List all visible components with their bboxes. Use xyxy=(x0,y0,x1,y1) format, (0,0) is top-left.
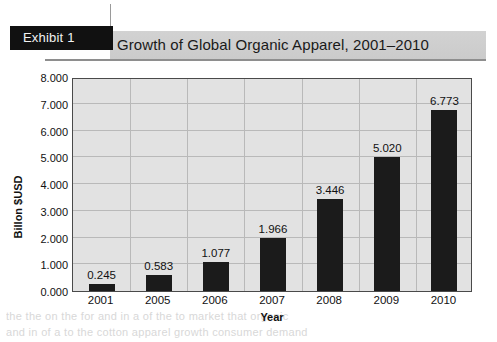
bar-value-label: 1.077 xyxy=(201,247,230,259)
bar xyxy=(260,238,286,291)
x-axis-tick-label: 2007 xyxy=(259,294,285,306)
y-axis-tick-label: 0.000 xyxy=(26,286,68,298)
bar-value-label: 1.966 xyxy=(259,223,288,235)
y-axis-tick-label: 5.000 xyxy=(26,152,68,164)
bar-value-label: 3.446 xyxy=(316,184,345,196)
bar-group: 1.077 xyxy=(187,79,244,291)
bar xyxy=(146,275,172,291)
x-axis-tick-label: 2001 xyxy=(88,294,114,306)
bar-value-label: 0.245 xyxy=(87,269,116,281)
plot-area: 0.2450.5831.0771.9663.4465.0206.773 xyxy=(72,78,472,292)
bar-series: 0.2450.5831.0771.9663.4465.0206.773 xyxy=(73,79,471,291)
bar xyxy=(203,262,229,291)
bar-value-label: 6.773 xyxy=(430,95,459,107)
bar-group: 1.966 xyxy=(244,79,301,291)
bar xyxy=(431,110,457,291)
bar-group: 0.245 xyxy=(73,79,130,291)
exhibit-label: Exhibit 1 xyxy=(23,30,75,45)
y-axis-title: Billon $USD xyxy=(12,157,24,257)
x-axis-tick-label: 2008 xyxy=(316,294,342,306)
y-axis-tick-label: 2.000 xyxy=(26,233,68,245)
x-axis-tick-labels: 2001200520062007200820092010 xyxy=(72,294,472,312)
bar xyxy=(317,199,343,291)
x-axis-tick-label: 2009 xyxy=(373,294,399,306)
bar-group: 5.020 xyxy=(359,79,416,291)
title-band-underline xyxy=(45,59,486,61)
page-title: Growth of Global Organic Apparel, 2001–2… xyxy=(117,36,429,53)
exhibit-header: Exhibit 1 Growth of Global Organic Appar… xyxy=(0,0,497,70)
x-axis-title: Year xyxy=(72,311,472,323)
page-bleed-line-2: and in of a to the cotton apparel growth… xyxy=(6,326,497,338)
bar-group: 3.446 xyxy=(302,79,359,291)
x-axis-tick-label: 2005 xyxy=(145,294,171,306)
y-axis-tick-label: 8.000 xyxy=(26,72,68,84)
bar-value-label: 0.583 xyxy=(144,260,173,272)
y-axis-tick-label: 6.000 xyxy=(26,126,68,138)
bar xyxy=(89,284,115,291)
bar-group: 0.583 xyxy=(130,79,187,291)
y-axis-tick-label: 3.000 xyxy=(26,206,68,218)
bar-chart: Billon $USD 8.0007.0006.0005.0004.0003.0… xyxy=(0,70,497,315)
y-axis-tick-label: 4.000 xyxy=(26,179,68,191)
y-axis-tick-label: 1.000 xyxy=(26,259,68,271)
bar xyxy=(374,157,400,291)
bar-value-label: 5.020 xyxy=(373,142,402,154)
y-axis-tick-label: 7.000 xyxy=(26,99,68,111)
bar-group: 6.773 xyxy=(416,79,473,291)
x-axis-tick-label: 2010 xyxy=(431,294,457,306)
exhibit-label-chip: Exhibit 1 xyxy=(10,26,113,50)
x-axis-tick-label: 2006 xyxy=(202,294,228,306)
y-axis-tick-labels: 8.0007.0006.0005.0004.0003.0002.0001.000… xyxy=(26,70,68,292)
